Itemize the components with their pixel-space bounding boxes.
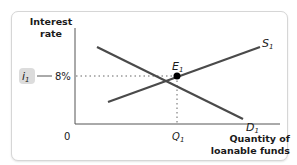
demand-curve-label: D1 [246,121,259,135]
rate-tick-label: 8% [55,71,71,82]
equilibrium-label: E1 [172,60,183,74]
origin-label: 0 [64,131,70,142]
supply-curve-s1 [108,47,260,102]
loanable-funds-chart: i1 8% E1 S1 D1 Q1 0 [0,0,297,165]
demand-curve-d1 [97,47,243,119]
i1-symbol: i1 [22,70,30,84]
q1-tick-label: Q1 [172,131,184,144]
supply-curve-label: S1 [262,37,273,51]
